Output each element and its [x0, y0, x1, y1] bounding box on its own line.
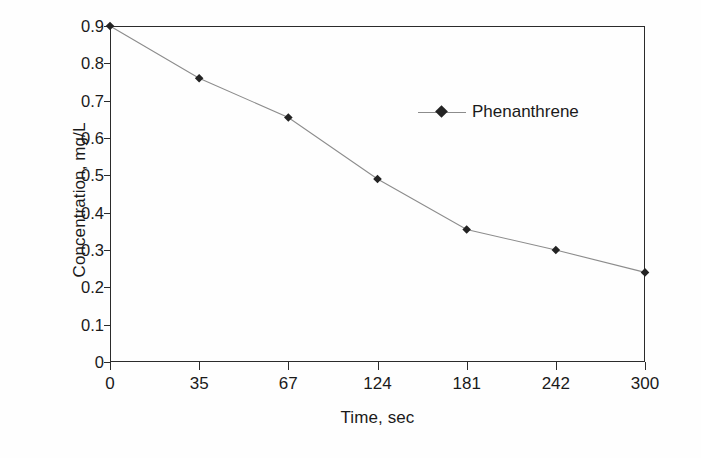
x-tick-label: 300 [605, 374, 685, 394]
x-tick-label: 242 [516, 374, 596, 394]
y-tick-mark [104, 138, 111, 139]
legend: Phenanthrene [418, 102, 579, 122]
x-tick-mark [556, 362, 557, 370]
x-axis-title: Time, sec [110, 408, 645, 428]
x-tick-label: 35 [159, 374, 239, 394]
y-tick-mark [104, 250, 111, 251]
y-tick-mark [104, 213, 111, 214]
y-tick-label: 0.9 [42, 17, 104, 36]
y-tick-mark [104, 26, 111, 27]
x-tick-label: 124 [338, 374, 418, 394]
x-tick-label: 67 [248, 374, 328, 394]
legend-entry-label: Phenanthrene [472, 102, 579, 122]
y-tick-label: 0.3 [42, 241, 104, 260]
x-tick-mark [467, 362, 468, 370]
line-chart-figure: Concentration, mg/L 00.10.20.30.40.50.60… [0, 0, 701, 458]
y-tick-label: 0 [42, 353, 104, 372]
x-tick-mark [199, 362, 200, 370]
y-tick-label: 0.7 [42, 91, 104, 110]
y-tick-label: 0.5 [42, 166, 104, 185]
x-tick-mark [645, 362, 646, 370]
x-tick-mark [288, 362, 289, 370]
legend-marker-icon [418, 105, 466, 119]
y-tick-mark [104, 63, 111, 64]
y-tick-label: 0.6 [42, 129, 104, 148]
y-tick-mark [104, 287, 111, 288]
x-tick-mark [378, 362, 379, 370]
plot-area-frame [110, 26, 645, 362]
y-tick-label: 0.2 [42, 278, 104, 297]
y-tick-mark [104, 175, 111, 176]
y-tick-label: 0.1 [42, 315, 104, 334]
y-tick-label: 0.8 [42, 54, 104, 73]
y-tick-label: 0.4 [42, 203, 104, 222]
x-tick-label: 0 [70, 374, 150, 394]
x-tick-label: 181 [427, 374, 507, 394]
y-tick-mark [104, 101, 111, 102]
x-tick-mark [110, 362, 111, 370]
y-tick-mark [104, 325, 111, 326]
